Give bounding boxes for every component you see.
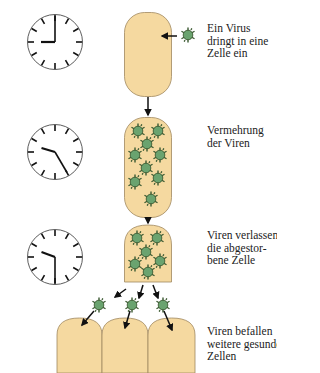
healthy-cell — [57, 318, 102, 373]
virus-icon — [126, 298, 138, 312]
healthy-cell — [148, 318, 195, 373]
step-4-caption: Viren befallen weitere gesunde Zellen — [207, 325, 277, 363]
clock-icon — [28, 125, 83, 180]
step-2-caption: Vermehrung der Viren — [207, 124, 264, 149]
arrow-icon — [139, 285, 143, 298]
clock-icon — [28, 15, 83, 70]
step-3-caption: Viren verlassen die abgestor- bene Zelle — [207, 229, 277, 267]
arrow-icon — [153, 285, 158, 298]
arrow-icon — [115, 289, 126, 297]
host-cell — [125, 13, 172, 97]
virus-icon — [182, 28, 194, 42]
clock-icon — [28, 230, 83, 285]
virus-icon — [93, 298, 105, 312]
step-1-caption: Ein Virus dringt in eine Zelle ein — [207, 22, 268, 60]
virus-icon — [157, 298, 169, 312]
